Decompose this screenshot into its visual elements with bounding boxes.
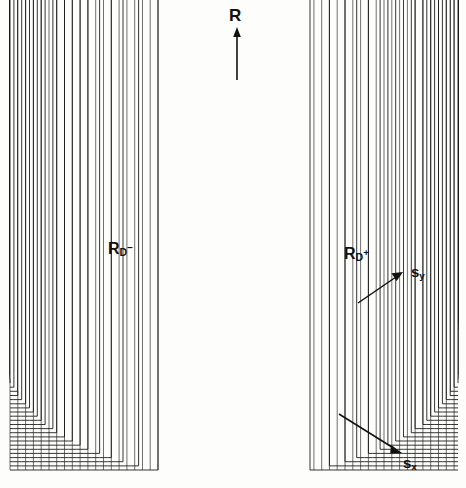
sx-axis-subscript: x bbox=[411, 461, 417, 472]
right-satellite-base: R bbox=[344, 245, 356, 262]
sy-axis-label: sy bbox=[411, 264, 425, 281]
right-satellite-peak-label: RD+ bbox=[344, 246, 369, 263]
right-satellite-superscript: + bbox=[363, 247, 369, 258]
sy-axis-subscript: y bbox=[419, 270, 425, 281]
r-axis-label-text: R bbox=[229, 6, 241, 25]
figure-root: R RD− RD+ sy sx bbox=[0, 0, 466, 488]
wireframe-surface-plot bbox=[0, 0, 466, 488]
r-axis-label: R bbox=[229, 7, 241, 24]
mesh-traces bbox=[10, 0, 458, 488]
left-satellite-superscript: − bbox=[127, 242, 133, 253]
left-satellite-base: R bbox=[108, 240, 120, 257]
sx-axis-label: sx bbox=[403, 455, 417, 472]
left-satellite-peak-label: RD− bbox=[108, 241, 133, 258]
